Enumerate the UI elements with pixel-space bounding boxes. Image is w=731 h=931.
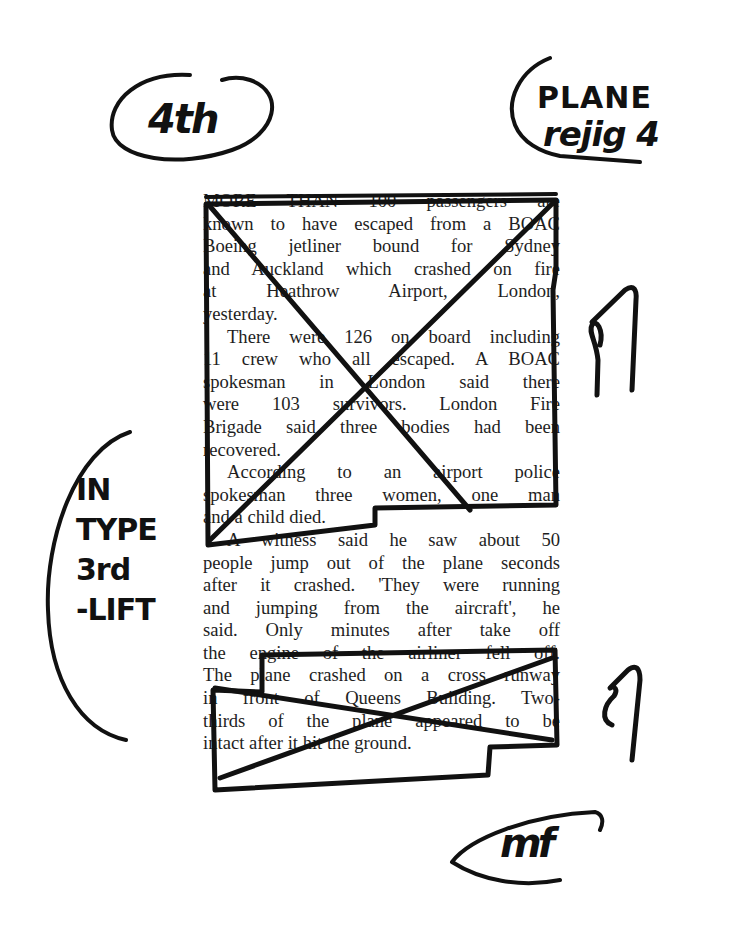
paragraph-5: the engine of the airliner fell off. The… (203, 642, 560, 755)
text-line: 11 crew who all escaped. A BOAC (203, 348, 560, 371)
text-line: recovered. (203, 439, 560, 462)
text-line: The plane crashed on a cross runway (203, 664, 560, 687)
paragraph-4: A witness said he saw about 50 people ju… (203, 529, 560, 642)
annotation-line: IN (76, 470, 157, 510)
text-line: According to an airport police (203, 461, 560, 484)
annotation-in-type: IN TYPE 3rd -LIFT (76, 470, 157, 630)
annotation-plane: PLANE (537, 80, 652, 115)
annotation-line: -LIFT (76, 590, 157, 630)
paragraph-3: According to an airport police spokesman… (203, 461, 560, 529)
text-line: were 103 survivors. London Fire (203, 393, 560, 416)
annotation-line: 3rd (76, 550, 157, 590)
text-line: There were 126 on board including (203, 326, 560, 349)
text-line: after it crashed. 'They were running (203, 574, 560, 597)
delete-symbol-2 (605, 667, 640, 760)
article-column: MORE THAN 100 passengers are known to ha… (203, 190, 560, 755)
annotation-line: TYPE (76, 510, 157, 550)
text-line: in front of Queens Building. Two- (203, 687, 560, 710)
text-line: thirds of the plane appeared to be (203, 710, 560, 733)
text-line: people jump out of the plane seconds (203, 552, 560, 575)
text-line: MORE THAN 100 passengers are (203, 190, 560, 213)
text-line: spokesman three women, one man (203, 484, 560, 507)
text-line: and Auckland which crashed on fire (203, 258, 560, 281)
paragraph-1: MORE THAN 100 passengers are known to ha… (203, 190, 560, 326)
text-line: A witness said he saw about 50 (203, 529, 560, 552)
paragraph-2: There were 126 on board including 11 cre… (203, 326, 560, 462)
annotation-initials: mf (500, 820, 551, 866)
text-line: yesterday. (203, 303, 560, 326)
text-line: and a child died. (203, 506, 560, 529)
text-line: Boeing jetliner bound for Sydney (203, 235, 560, 258)
text-line: Brigade said three bodies had been (203, 416, 560, 439)
text-line: and jumping from the aircraft', he (203, 597, 560, 620)
text-line: spokesman in London said there (203, 371, 560, 394)
annotation-rejig: rejig 4 (543, 114, 659, 154)
text-line: known to have escaped from a BOAC (203, 213, 560, 236)
text-line: said. Only minutes after take off (203, 619, 560, 642)
text-line: at Heathrow Airport, London, (203, 280, 560, 303)
text-line: the engine of the airliner fell off. (203, 642, 560, 665)
annotation-4th: 4th (148, 96, 217, 142)
delete-symbol-1 (591, 288, 636, 395)
text-line: intact after it hit the ground. (203, 732, 560, 755)
